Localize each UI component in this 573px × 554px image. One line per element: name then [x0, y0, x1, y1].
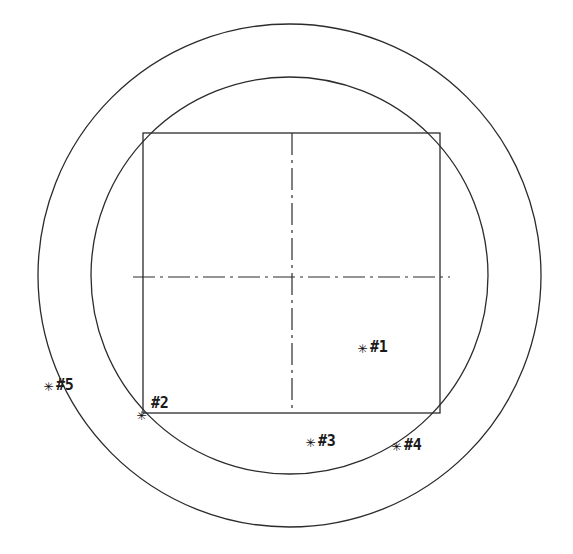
point-label-3: #3: [318, 434, 335, 449]
point-marker-4: ✳: [392, 438, 402, 454]
inner-circle: [91, 77, 488, 474]
point-marker-3: ✳: [306, 434, 316, 450]
drawing-geometry: [0, 0, 573, 554]
point-label-2: #2: [151, 396, 168, 411]
outer-circle: [38, 24, 541, 527]
technical-drawing-canvas: ✳ #1 ✳ #2 ✳ #3 ✳ #4 ✳ #5: [0, 0, 573, 554]
point-marker-2: ✳: [137, 407, 147, 423]
point-marker-1: ✳: [358, 340, 368, 356]
point-label-1: #1: [370, 340, 387, 355]
point-label-5: #5: [56, 378, 73, 393]
point-label-4: #4: [404, 438, 421, 453]
point-marker-5: ✳: [44, 378, 54, 394]
